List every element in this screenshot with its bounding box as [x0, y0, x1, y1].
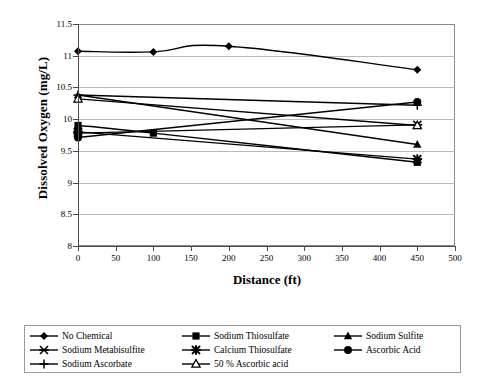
x-axis-tick-label: 200 [209, 253, 249, 263]
y-axis-tick [73, 87, 78, 88]
legend-marker [333, 330, 363, 342]
data-point-filled-diamond [40, 332, 48, 340]
filled-circle-icon [333, 344, 363, 356]
legend-item-label: Sodium Thiosulfate [214, 331, 289, 341]
x-axis-tick [417, 246, 418, 251]
legend-item[interactable]: Sodium Ascorbate [29, 358, 181, 370]
y-axis-tick [73, 214, 78, 215]
y-axis-tick-label: 8 [38, 242, 72, 251]
open-triangle-icon [181, 358, 211, 370]
filled-diamond-icon [29, 330, 59, 342]
legend-marker [29, 330, 59, 342]
legend-item[interactable]: Sodium Thiosulfate [181, 330, 333, 342]
legend-marker [333, 344, 363, 356]
x-axis-tick [342, 246, 343, 251]
legend-item[interactable]: Sodium Metabisulfite [29, 344, 181, 356]
legend-item[interactable]: 50 % Ascorbic acid [181, 358, 333, 370]
y-axis-tick [73, 119, 78, 120]
data-point-star-x [39, 346, 49, 354]
legend-item[interactable]: No Chemical [29, 330, 181, 342]
legend-item[interactable]: Calcium Thiosulfate [181, 344, 333, 356]
x-axis-tick [116, 246, 117, 251]
x-axis-tick [191, 246, 192, 251]
chart-container: 88.599.51010.51111.5 0501001502002503003… [0, 0, 487, 388]
y-axis-tick [73, 56, 78, 57]
x-axis-tick [78, 246, 79, 251]
x-axis-tick [229, 246, 230, 251]
data-point-filled-square [192, 332, 199, 339]
data-point-star-bold [413, 154, 423, 164]
x-axis-tick-label: 250 [247, 253, 287, 263]
data-point-filled-circle [344, 346, 352, 354]
x-axis-tick-label: 150 [171, 253, 211, 263]
x-axis-tick-label: 300 [284, 253, 324, 263]
x-axis-tick-label: 350 [322, 253, 362, 263]
legend-item-label: Sodium Sulfite [366, 331, 423, 341]
star-bold-icon [181, 344, 211, 356]
plot-area [78, 24, 455, 246]
legend-marker [29, 358, 59, 370]
legend-marker [181, 330, 211, 342]
x-axis-tick-label: 400 [360, 253, 400, 263]
legend-item-label: No Chemical [62, 331, 112, 341]
data-point-filled-diamond [225, 42, 233, 50]
x-axis-tick-label: 100 [133, 253, 173, 263]
x-axis-tick-label: 0 [58, 253, 98, 263]
x-axis-title: Distance (ft) [78, 272, 456, 288]
x-axis-tick [455, 246, 456, 251]
y-axis-tick [73, 183, 78, 184]
data-point-filled-diamond [149, 48, 157, 56]
filled-square-icon [181, 330, 211, 342]
series-sodium-metabisulfite [73, 121, 422, 137]
legend-item-label: Sodium Ascorbate [62, 359, 132, 369]
y-axis-title: Dissolved Oxygen (mg/L) [35, 23, 51, 233]
legend-item[interactable]: Sodium Sulfite [333, 330, 458, 342]
chart-legend: No ChemicalSodium ThiosulfateSodium Sulf… [24, 325, 461, 373]
y-axis-tick [73, 151, 78, 152]
y-axis-tick [73, 24, 78, 25]
legend-marker [181, 344, 211, 356]
x-axis-tick-label: 500 [435, 253, 475, 263]
data-point-filled-diamond [413, 66, 421, 74]
legend-marker [181, 358, 211, 370]
legend-item-label: Calcium Thiosulfate [214, 345, 292, 355]
legend-item-label: Sodium Metabisulfite [62, 345, 145, 355]
y-axis-line [78, 24, 79, 246]
data-point-star-bold [191, 345, 201, 355]
x-axis-tick [380, 246, 381, 251]
x-axis-tick [304, 246, 305, 251]
filled-triangle-icon [333, 330, 363, 342]
legend-item[interactable]: Ascorbic Acid [333, 344, 458, 356]
x-axis-tick [153, 246, 154, 251]
data-series-layer [78, 24, 455, 246]
plus-icon [29, 358, 59, 370]
x-axis-tick [267, 246, 268, 251]
x-axis-tick-label: 450 [397, 253, 437, 263]
legend-marker [29, 344, 59, 356]
x-axis-tick-label: 50 [96, 253, 136, 263]
series-no-chemical [74, 42, 421, 73]
legend-item-label: 50 % Ascorbic acid [214, 359, 288, 369]
star-x-icon [29, 344, 59, 356]
legend-item-label: Ascorbic Acid [366, 345, 421, 355]
data-point-plus [39, 359, 48, 368]
